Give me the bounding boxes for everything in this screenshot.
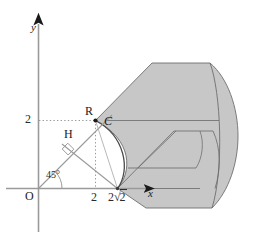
point-dot-r [93,118,97,122]
point-label-origin: O [25,190,34,202]
x-axis-label: x [148,188,153,199]
point-label-h: H [64,128,73,140]
x-tick-label-2: 2 [91,191,97,203]
y-axis-label: y [31,22,36,33]
geometry-figure: y x O R C H 2 2 2√2 45° [0,0,253,238]
point-label-c: C [104,115,112,127]
point-label-r: R [85,105,93,117]
y-tick-label-2: 2 [25,113,31,125]
angle-label-45: 45° [46,170,60,180]
x-tick-label-2root2: 2√2 [108,191,127,203]
line-a-to-h-perpendicular [62,144,118,189]
x-tick-2root2-radicand: 2 [120,189,127,204]
